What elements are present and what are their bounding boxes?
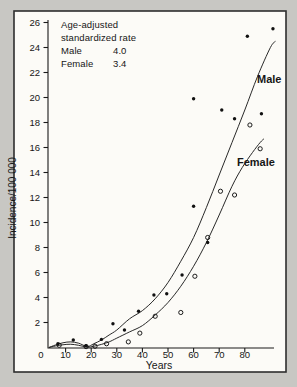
male-data-point [220,108,223,111]
y-axis-title: Incidence/100 000 [7,157,18,239]
female-curve-label: Female [237,156,275,168]
male-data-point [100,338,103,341]
male-data-point [192,205,195,208]
x-axis-title: Years [146,359,172,371]
male-data-point [246,35,249,38]
x-tick-label: 80 [240,349,251,360]
male-data-point [165,292,168,295]
male-data-point [180,273,183,276]
male-data-point [72,338,75,341]
y-tick-label: 14 [29,167,40,178]
male-data-point [206,241,209,244]
y-tick-label: 10 [29,217,40,228]
y-tick-label: 18 [29,117,40,128]
figure-panel [14,11,286,372]
legend-male-value: 4.0 [113,45,127,56]
y-tick-label: 2 [35,317,40,328]
male-data-point [123,328,126,331]
y-tick-label: 4 [35,292,40,303]
legend-line-2: standardized rate [61,32,136,43]
x-tick-label: 20 [86,349,97,360]
male-data-point [152,293,155,296]
legend-female-value: 3.4 [113,58,127,69]
x-tick-label: 70 [214,349,225,360]
legend-line-1: Age-adjusted [61,19,118,30]
y-tick-label: 20 [29,92,40,103]
y-tick-label: 6 [35,267,40,278]
male-data-point [233,117,236,120]
legend-male-label: Male [61,45,82,56]
x-tick-label: 60 [188,349,199,360]
male-data-point [137,310,140,313]
x-tick-label: 30 [112,349,123,360]
y-tick-label: 26 [29,17,40,28]
male-data-point [192,97,195,100]
male-curve-label: Male [257,73,281,85]
x-tick-label: 50 [163,349,174,360]
y-tick-label: 12 [29,192,40,203]
y-tick-label: 16 [29,142,40,153]
legend-female-label: Female [61,58,93,69]
x-tick-label: 40 [137,349,148,360]
x-tick-label: 0 [38,349,43,360]
y-tick-label: 24 [29,42,40,53]
male-data-point [271,27,274,30]
male-data-point [111,322,114,325]
y-tick-label: 8 [35,242,40,253]
y-tick-label: 22 [29,67,40,78]
chart-canvas: 010203040506070802468101214161820222426 … [0,0,297,387]
male-data-point [260,112,263,115]
x-tick-label: 10 [60,349,71,360]
